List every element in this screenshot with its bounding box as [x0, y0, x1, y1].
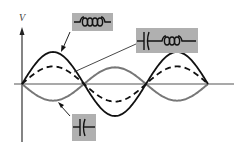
lc-series-pointer [74, 44, 136, 72]
inductor-pointer-arrow-icon [61, 45, 66, 52]
capacitor-label [58, 102, 96, 141]
axes: V [14, 12, 234, 142]
waveform-diagram: V [0, 0, 245, 149]
y-axis-label: V [19, 12, 27, 23]
inductor-pointer [63, 32, 70, 48]
capacitor-pointer-arrow-icon [58, 102, 64, 108]
capacitor-pointer [61, 106, 70, 116]
y-axis-arrow-icon [20, 27, 25, 35]
inductor-label [61, 13, 113, 52]
lc-series-label [74, 28, 198, 72]
